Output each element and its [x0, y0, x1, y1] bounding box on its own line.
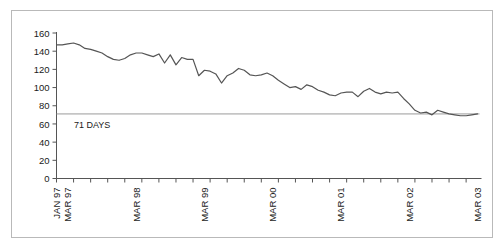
y-axis-tick-label: 120 — [34, 64, 50, 75]
x-axis-tick-label: MAR 03 — [472, 188, 483, 222]
y-axis-tick-label: 80 — [39, 100, 50, 111]
data-series-line — [57, 43, 478, 116]
x-axis-tick-label: MAR 99 — [199, 188, 210, 222]
y-axis-tick-label: 100 — [34, 82, 50, 93]
x-axis-tick-label: JAN 97 — [51, 188, 62, 219]
y-axis-tick-label: 60 — [39, 119, 50, 130]
chart-figure: 020406080100120140160JAN 97MAR 97MAR 98M… — [0, 0, 503, 251]
reference-line-label: 71 DAYS — [74, 120, 110, 130]
x-axis-tick-label: MAR 97 — [62, 188, 73, 222]
line-chart: 020406080100120140160JAN 97MAR 97MAR 98M… — [0, 0, 503, 251]
y-axis-tick-label: 160 — [34, 28, 50, 39]
y-axis-tick-label: 40 — [39, 137, 50, 148]
x-axis-tick-label: MAR 98 — [131, 188, 142, 222]
x-axis-tick-label: MAR 01 — [335, 188, 346, 222]
y-axis-tick-label: 0 — [44, 173, 49, 184]
y-axis-tick-label: 140 — [34, 46, 50, 57]
x-axis-tick-label: MAR 02 — [404, 188, 415, 222]
y-axis-tick-label: 20 — [39, 155, 50, 166]
x-axis-tick-label: MAR 00 — [267, 188, 278, 222]
